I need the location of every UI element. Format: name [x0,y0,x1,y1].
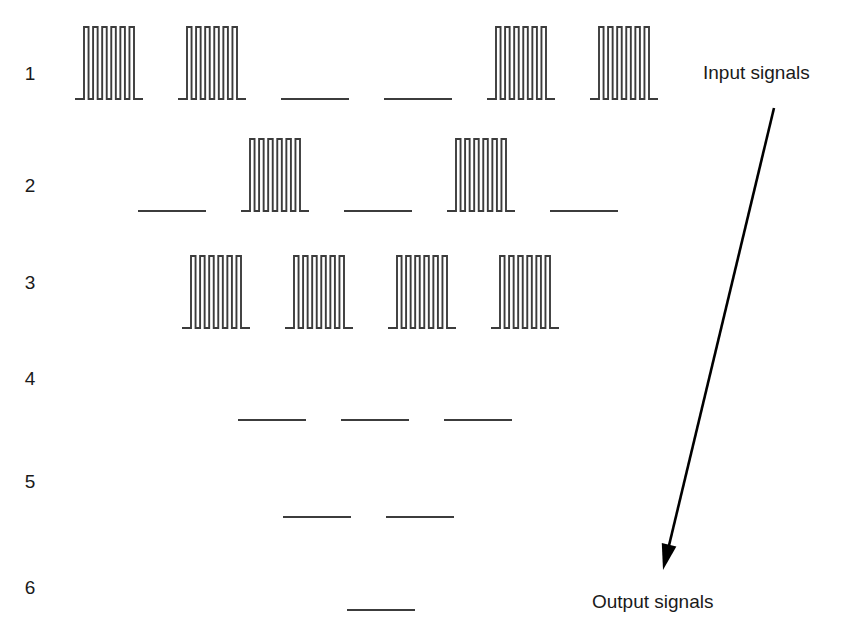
trace-row1-segment2-burst [178,27,246,99]
flow-arrow-head [662,543,677,570]
row-labels-group: 123456 [25,63,36,598]
row-label-3: 3 [25,272,36,293]
trace-row1-segment5-burst [487,27,555,99]
row-label-1: 1 [25,63,36,84]
trace-row2-segment2-burst [241,139,309,211]
trace-row3-segment3-burst [388,256,456,328]
trace-row3-segment1-burst [182,256,250,328]
trace-row3-segment2-burst [285,256,353,328]
signal-cascade-figure: 123456 Input signalsOutput signals [0,0,850,641]
row-label-6: 6 [25,577,36,598]
trace-row3-segment4-burst [491,256,559,328]
row-label-5: 5 [25,471,36,492]
flow-arrow-shaft [666,108,774,558]
signal-cascade-canvas: 123456 Input signalsOutput signals [0,0,850,641]
output-signals-label: Output signals [592,591,713,612]
trace-row1-segment1-burst [75,27,143,99]
input-to-output-arrow [662,108,774,570]
annotation-labels-group: Input signalsOutput signals [592,62,810,612]
trace-row2-segment4-burst [447,139,515,211]
trace-row1-segment6-burst [590,27,658,99]
row-label-4: 4 [25,368,36,389]
input-signals-label: Input signals [703,62,810,83]
row-label-2: 2 [25,175,36,196]
signal-traces-group [75,27,658,610]
